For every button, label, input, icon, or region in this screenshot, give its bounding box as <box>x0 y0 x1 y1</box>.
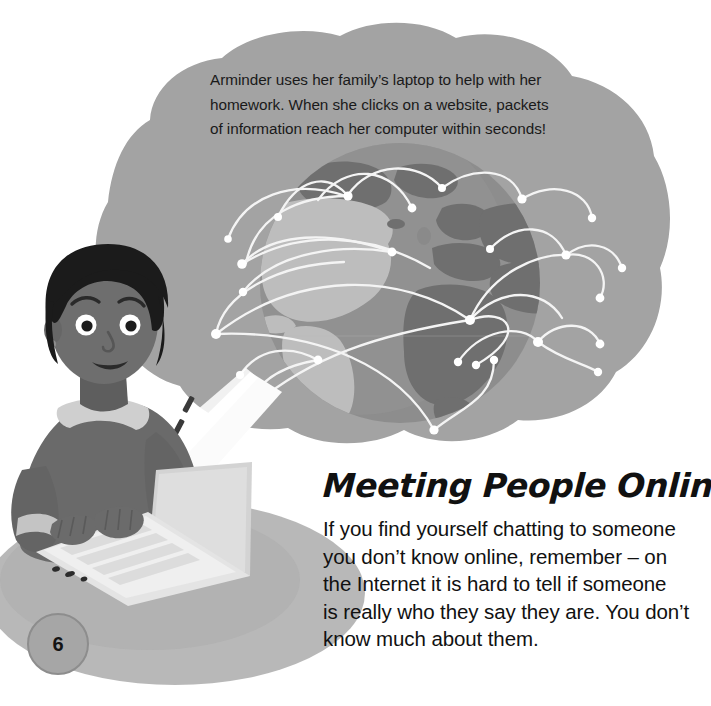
book-page: Arminder uses her family’s laptop to hel… <box>0 0 711 706</box>
pupil-left <box>81 320 92 331</box>
page-number-value: 6 <box>52 633 63 656</box>
article-heading: Meeting People Online <box>322 466 704 506</box>
article-body-line: you don’t know online, remember – on <box>323 543 703 571</box>
pupil-right <box>125 320 136 331</box>
article-body-line: the Internet it is hard to tell if someo… <box>323 570 703 598</box>
article-body-line: know much about them. <box>323 625 703 653</box>
article-body-line: If you find yourself chatting to someone <box>323 515 703 543</box>
page-number-badge: 6 <box>27 613 89 675</box>
article-block: Meeting People Online If you find yourse… <box>323 466 703 653</box>
article-body: If you find yourself chatting to someone… <box>323 515 703 653</box>
sweater-left-sleeve <box>11 466 59 552</box>
article-body-line: is really who they say they are. You don… <box>323 598 703 626</box>
